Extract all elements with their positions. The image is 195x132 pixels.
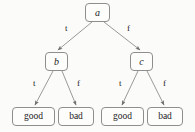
tree-node-leaf2: bad [58, 107, 94, 126]
tree-node-leaf4: bad [147, 107, 183, 126]
tree-node-b: b [45, 52, 68, 71]
edge-label-c-t: t [119, 79, 122, 88]
tree-edge-a-to-b [58, 22, 92, 50]
tree-node-a: a [85, 3, 110, 22]
tree-edge-c-to-leaf4 [147, 71, 164, 105]
tree-edge-a-to-c [104, 22, 140, 50]
tree-node-leaf1: good [12, 107, 55, 126]
tree-node-c: c [130, 52, 153, 71]
tree-node-leaf3: good [101, 107, 144, 126]
tree-edge-b-to-leaf1 [35, 71, 53, 105]
edge-label-b-f: f [77, 79, 80, 88]
decision-tree-diagram: abcgoodbadgoodbad tftftf [0, 0, 195, 132]
edge-label-c-f: f [163, 79, 166, 88]
tree-edge-b-to-leaf2 [62, 71, 76, 105]
tree-edge-c-to-leaf3 [122, 71, 138, 105]
edge-label-a-t: t [65, 24, 68, 33]
edge-label-a-f: f [127, 24, 130, 33]
edge-label-b-t: t [33, 79, 36, 88]
